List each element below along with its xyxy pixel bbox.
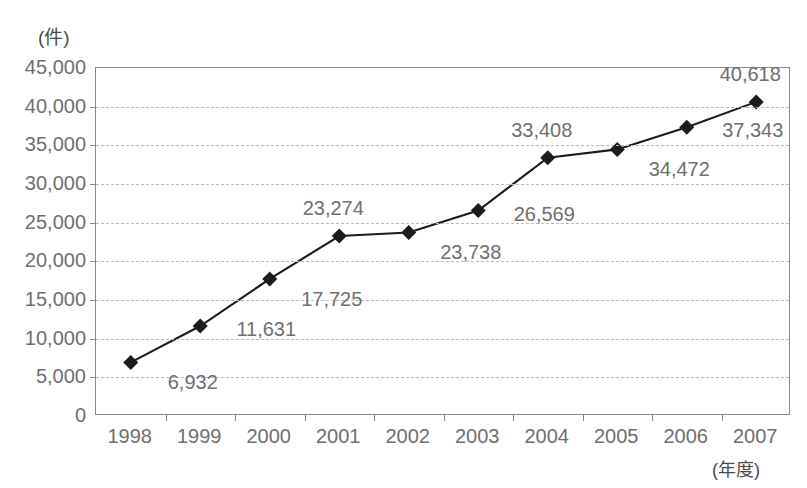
series-line [131,102,757,363]
x-axis-tick-mark [305,414,306,421]
y-axis-tick-mark [90,223,96,224]
y-axis-tick-label: 40,000 [0,94,86,117]
data-point-label: 23,274 [303,197,364,220]
chart-page: (件) 45,00040,00035,00030,00025,00020,000… [0,0,807,488]
data-point-marker [401,225,416,240]
x-axis-tick-label: 2007 [710,425,800,448]
y-axis-tick-mark [90,300,96,301]
series-markers [123,94,764,370]
gridline [96,145,789,146]
data-point-marker [610,142,625,157]
data-point-label: 34,472 [649,158,710,181]
x-axis-unit-label: (年度) [712,455,760,481]
gridline [96,223,789,224]
y-axis-tick-label: 45,000 [0,56,86,79]
x-axis-tick-mark [166,414,167,421]
data-point-label: 37,343 [722,119,783,142]
y-axis-tick-label: 20,000 [0,249,86,272]
y-axis-tick-label: 5,000 [0,365,86,388]
data-point-marker [332,229,347,244]
data-point-label: 11,631 [236,318,296,341]
data-point-label: 17,725 [301,287,362,310]
x-axis-tick-mark [513,414,514,421]
gridline [96,339,789,340]
data-point-marker [471,203,486,218]
y-axis-tick-mark [90,261,96,262]
data-point-label: 6,932 [168,371,218,394]
y-axis-unit-label: (件) [38,22,70,49]
x-axis-tick-mark [374,414,375,421]
y-axis-tick-mark [90,145,96,146]
y-axis-tick-label: 15,000 [0,288,86,311]
y-axis-tick-mark [90,184,96,185]
data-point-marker [679,120,694,135]
y-axis-tick-mark [90,107,96,108]
y-axis-tick-label: 10,000 [0,326,86,349]
x-axis-tick-mark [444,414,445,421]
data-point-marker [123,355,138,370]
x-axis-tick-labels: 1998199920002001200220032004200520062007 [95,425,790,455]
data-point-label: 23,738 [440,241,501,264]
y-axis-tick-mark [90,339,96,340]
gridline [96,184,789,185]
data-point-marker [262,271,277,286]
plot-area: 6,93211,63117,72523,27423,73826,56933,40… [95,67,790,415]
data-point-marker [193,319,208,334]
x-axis-tick-mark [583,414,584,421]
y-axis-tick-labels: 45,00040,00035,00030,00025,00020,00015,0… [0,67,86,415]
gridline [96,300,789,301]
y-axis-tick-label: 0 [0,404,86,427]
y-axis-tick-label: 30,000 [0,172,86,195]
x-axis-tick-mark [722,414,723,421]
data-point-label: 40,618 [720,62,781,85]
y-axis-tick-mark [90,377,96,378]
data-point-marker [540,150,555,165]
x-axis-tick-mark [652,414,653,421]
gridline [96,107,789,108]
data-point-label: 26,569 [514,202,575,225]
data-point-label: 33,408 [511,118,572,141]
x-axis-tick-mark [235,414,236,421]
y-axis-tick-label: 25,000 [0,210,86,233]
y-axis-tick-label: 35,000 [0,133,86,156]
